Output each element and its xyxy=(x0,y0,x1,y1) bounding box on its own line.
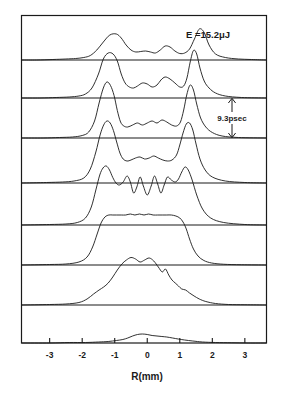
x-axis-tick-labels: -3-2-10123 xyxy=(46,350,248,360)
x-tick-label-neg1: -1 xyxy=(111,350,119,360)
plot-frame xyxy=(22,16,267,344)
trace-panel-4 xyxy=(22,121,266,183)
x-axis-title: R(mm) xyxy=(131,371,163,382)
x-tick-label-neg3: -3 xyxy=(46,350,54,360)
trace-panel-3 xyxy=(22,82,266,138)
trace-panel-5 xyxy=(22,166,266,225)
time-interval-label: 9.3psec xyxy=(217,114,247,123)
pulse-energy-label: E =15.2μJ xyxy=(186,29,230,40)
x-tick-label-3: 3 xyxy=(242,350,247,360)
x-tick-label-0: 0 xyxy=(145,350,150,360)
x-tick-label-1: 1 xyxy=(177,350,182,360)
x-tick-label-2: 2 xyxy=(210,350,215,360)
trace-panel-2 xyxy=(22,50,266,98)
trace-panel-8 xyxy=(22,334,266,343)
figure-container: -3-2-10123 R(mm) E =15.2μJ 9.3psec xyxy=(0,0,286,396)
beam-profile-figure: -3-2-10123 R(mm) E =15.2μJ 9.3psec xyxy=(0,0,286,396)
x-tick-label-neg2: -2 xyxy=(78,350,86,360)
trace-panel-6 xyxy=(22,214,266,265)
time-interval-arrow: 9.3psec xyxy=(213,98,251,137)
trace-group xyxy=(22,29,266,343)
